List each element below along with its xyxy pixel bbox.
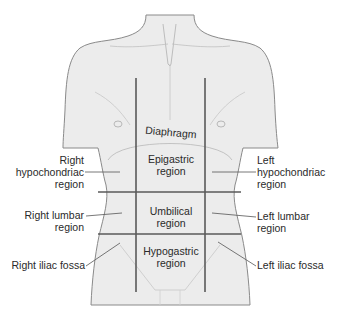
label-line: region: [138, 165, 204, 177]
label-line: hypochondriac: [257, 166, 339, 178]
label-epigastric-region: Epigastric region: [138, 153, 204, 177]
label-line: Umbilical: [138, 205, 204, 217]
label-line: region: [4, 178, 84, 190]
label-line: region: [138, 217, 204, 229]
label-right-iliac-fossa: Right iliac fossa: [0, 259, 85, 271]
label-line: Right lumbar: [4, 209, 84, 221]
label-line: region: [136, 257, 206, 269]
label-left-hypochondriac-region: Left hypochondriac region: [257, 154, 339, 190]
label-line: region: [4, 221, 84, 233]
label-line: Epigastric: [138, 153, 204, 165]
label-hypogastric-region: Hypogastric region: [136, 245, 206, 269]
label-line: region: [257, 222, 339, 234]
label-line: Left lumbar: [257, 210, 339, 222]
label-line: Right: [4, 154, 84, 166]
label-line: Left: [257, 154, 339, 166]
label-line: Hypogastric: [136, 245, 206, 257]
label-umbilical-region: Umbilical region: [138, 205, 204, 229]
label-right-hypochondriac-region: Right hypochondriac region: [4, 154, 84, 190]
abdominal-regions-diagram: Diaphragm Epigastric region Umbilical re…: [0, 0, 340, 320]
label-line: region: [257, 178, 339, 190]
label-left-iliac-fossa: Left iliac fossa: [257, 259, 339, 271]
label-line: hypochondriac: [4, 166, 84, 178]
label-right-lumbar-region: Right lumbar region: [4, 209, 84, 233]
label-left-lumbar-region: Left lumbar region: [257, 210, 339, 234]
